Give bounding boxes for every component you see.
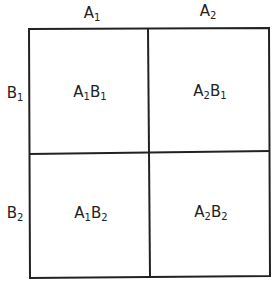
cell-a2b2: A2B2 (194, 203, 227, 226)
cell-a2b1: A2B1 (193, 82, 226, 105)
row-header-b2: B2 (7, 204, 24, 227)
cell-a1b2: A1B2 (74, 204, 107, 227)
row-header-b1: B1 (7, 84, 24, 107)
grid-lines (0, 0, 276, 289)
column-header-a2: A2 (200, 2, 217, 25)
column-header-a1: A1 (84, 4, 101, 27)
cell-a1b1: A1B1 (73, 83, 106, 106)
